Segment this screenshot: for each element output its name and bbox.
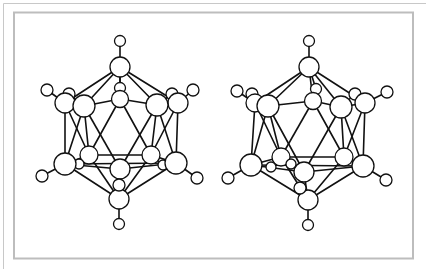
stereo-molecule-figure — [0, 0, 426, 269]
hydrogen-atom-Hs3 — [266, 162, 276, 172]
bond-Bm-Bb3 — [281, 101, 313, 157]
boron-atom-Bb2 — [355, 93, 375, 113]
boron-atom-B4 — [352, 155, 374, 177]
hydrogen-atom-H1 — [41, 84, 53, 96]
boron-atom-B3 — [54, 153, 76, 175]
hydrogen-atom-H2 — [381, 86, 393, 98]
boron-atom-Bb4 — [142, 146, 160, 164]
boron-atom-B3 — [240, 154, 262, 176]
hydrogen-atom-Hbot — [303, 220, 314, 231]
molecule-left-view — [36, 36, 203, 230]
boron-atom-B2 — [146, 94, 168, 116]
hydrogen-atom-Ht — [304, 36, 315, 47]
hydrogen-atom-H2 — [187, 84, 199, 96]
boron-atom-Bb1 — [55, 93, 75, 113]
boron-atom-Bm — [305, 93, 322, 110]
atom-layer — [222, 36, 393, 231]
boron-atom-Bc — [110, 159, 130, 179]
hydrogen-atom-Hbot — [114, 219, 125, 230]
boron-atom-B4 — [165, 152, 187, 174]
atom-layer — [36, 36, 203, 230]
hydrogen-atom-H3 — [36, 170, 48, 182]
boron-atom-Bb4 — [335, 148, 353, 166]
boron-atom-B1 — [73, 95, 95, 117]
boron-atom-B2 — [330, 96, 352, 118]
hydrogen-atom-H1 — [231, 85, 243, 97]
molecule-right-view — [222, 36, 393, 231]
boron-atom-Bt — [110, 57, 130, 77]
boron-atom-Bbot — [109, 189, 129, 209]
boron-atom-Bb2 — [168, 93, 188, 113]
hydrogen-atom-H4 — [191, 172, 203, 184]
hydrogen-atom-Hc — [294, 182, 306, 194]
figure-frame — [4, 4, 426, 269]
boron-atom-Bm — [112, 91, 129, 108]
hydrogen-atom-H3 — [222, 172, 234, 184]
hydrogen-atom-Hc — [113, 179, 125, 191]
boron-atom-B1 — [257, 95, 279, 117]
boron-atom-Bt — [299, 57, 319, 77]
hydrogen-atom-Ht — [115, 36, 126, 47]
hydrogen-atom-H4 — [380, 174, 392, 186]
boron-atom-Bc — [294, 162, 314, 182]
